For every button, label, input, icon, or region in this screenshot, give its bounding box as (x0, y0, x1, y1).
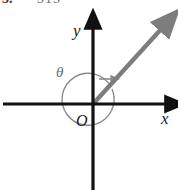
coordinate-plane-diagram: y x O θ (0, 0, 178, 190)
angle-theta-label: θ (56, 64, 64, 80)
origin-label: O (76, 112, 88, 129)
angle-arc-group (62, 73, 114, 125)
x-axis-label: x (160, 109, 169, 128)
y-axis-label: y (71, 21, 81, 40)
angle-arc-path (62, 73, 114, 125)
terminal-ray (93, 27, 163, 104)
figure-container: 5. 315 y x O θ (0, 0, 178, 190)
